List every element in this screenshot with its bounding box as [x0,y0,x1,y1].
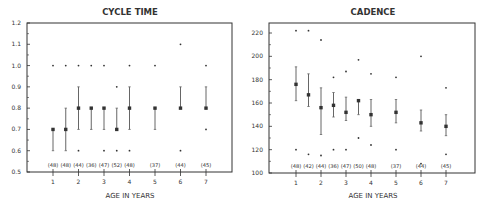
outlier-dot [180,150,182,152]
x-tick-label: 1 [294,179,298,186]
y-tick-label: 100 [252,169,264,176]
sample-size-label: (47) [99,162,110,168]
mean-marker [51,128,54,131]
outlier-dot [103,65,105,67]
mean-marker [369,113,372,116]
outlier-dot [295,149,297,151]
outlier-dot [129,150,131,152]
sample-size-label: (45) [201,162,212,168]
x-axis-label: AGE IN YEARS [348,192,398,200]
sample-size-label: (48) [48,162,59,168]
outlier-dot [205,129,207,131]
x-tick-label: 6 [179,178,183,185]
outlier-dot [445,87,447,89]
chart-title: CYCLE TIME [102,7,158,17]
mean-marker [204,106,207,109]
mean-marker [77,106,80,109]
x-tick-label: 4 [369,179,373,186]
y-tick-label: 160 [252,99,264,106]
x-tick-label: 4 [128,178,132,185]
sample-size-label: (45) [441,163,452,169]
outlier-dot [420,55,422,57]
sample-size-label: (47) [341,163,352,169]
outlier-dot [129,65,131,67]
outlier-dot [370,73,372,75]
sample-size-label: (50) [353,163,364,169]
mean-marker [128,106,131,109]
outlier-dot [78,150,80,152]
outlier-dot [333,76,335,78]
sample-size-label: (42) [303,163,314,169]
mean-marker [319,106,322,109]
mean-marker [64,128,67,131]
mean-marker [90,106,93,109]
y-tick-label: 0.6 [11,147,21,154]
mean-marker [332,104,335,107]
sample-size-label: (48) [124,162,135,168]
x-tick-label: 2 [319,179,323,186]
y-tick-label: 220 [252,29,264,36]
mean-marker [294,83,297,86]
charts-canvas: CYCLE TIME AGE IN YEARS 0.50.60.70.80.91… [0,0,481,202]
sample-size-label: (36) [328,163,339,169]
mean-marker [153,106,156,109]
outlier-dot [370,144,372,146]
x-tick-label: 2 [77,178,81,185]
outlier-dot [116,150,118,152]
y-tick-label: 120 [252,146,264,153]
sample-size-label: (44) [175,162,186,168]
figure: CYCLE TIME AGE IN YEARS 0.50.60.70.80.91… [0,0,481,202]
sample-size-label: (48) [60,162,71,168]
outlier-dot [445,153,447,155]
y-tick-label: 0.5 [11,168,21,175]
x-tick-label: 5 [394,179,398,186]
sample-size-label: (36) [86,162,97,168]
outlier-dot [358,59,360,61]
y-tick-label: 0.7 [11,125,21,132]
mean-marker [394,111,397,114]
x-tick-label: 1 [51,178,55,185]
outlier-dot [180,43,182,45]
sample-size-label: (44) [316,163,327,169]
chart-title: CADENCE [351,7,396,17]
outlier-dot [308,153,310,155]
outlier-dot [320,155,322,157]
y-tick-label: 140 [252,122,264,129]
outlier-dot [90,65,92,67]
mean-marker [444,125,447,128]
y-tick-label: 1.0 [11,62,21,69]
mean-marker [307,93,310,96]
cadence-chart: CADENCE AGE IN YEARS 1001201401601802002… [252,7,475,200]
sample-size-label: (48) [291,163,302,169]
outlier-dot [205,65,207,67]
sample-size-label: (37) [150,162,161,168]
outlier-dot [333,149,335,151]
sample-size-label: (48) [366,163,377,169]
outlier-dot [52,65,54,67]
sample-size-label: (52) [111,162,122,168]
outlier-dot [358,137,360,139]
y-tick-label: 1.1 [11,40,21,47]
y-tick-label: 0.9 [11,83,21,90]
outlier-dot [154,65,156,67]
y-tick-label: 180 [252,76,264,83]
outlier-dot [345,149,347,151]
outlier-dot [395,76,397,78]
outlier-dot [116,86,118,88]
x-axis-label: AGE IN YEARS [105,192,155,200]
mean-marker [357,99,360,102]
sample-size-label: (44) [416,163,427,169]
x-tick-label: 3 [344,179,348,186]
plot-frame [269,23,475,173]
x-tick-label: 7 [204,178,208,185]
mean-marker [115,128,118,131]
mean-marker [179,106,182,109]
x-tick-label: 5 [153,178,157,185]
outlier-dot [78,65,80,67]
mean-marker [419,121,422,124]
y-tick-label: 0.8 [11,104,21,111]
sample-size-label: (44) [73,162,84,168]
outlier-dot [65,65,67,67]
outlier-dot [295,30,297,32]
cycle-time-chart: CYCLE TIME AGE IN YEARS 0.50.60.70.80.91… [11,7,232,200]
